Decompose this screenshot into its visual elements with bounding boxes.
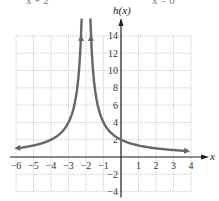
x-tick-label: −5 [28, 160, 39, 171]
x-tick-label: −4 [46, 160, 57, 171]
function-graph: −6−5−4−3−2−11234−4−22468101214 h(x) x [0, 0, 219, 201]
x-tick-label: −2 [81, 160, 92, 171]
y-tick-label: 8 [113, 82, 118, 93]
x-axis-label: x [209, 150, 215, 162]
left-branch-curve [18, 19, 82, 149]
y-tick-label: 6 [113, 100, 118, 111]
y-tick-label: −2 [107, 169, 118, 180]
y-axis-arrow-icon [119, 18, 124, 26]
curves [14, 19, 190, 154]
x-tick-label: −3 [63, 160, 74, 171]
y-axis-label: h(x) [113, 4, 131, 17]
y-tick-label: −4 [107, 186, 118, 197]
x-axis-arrow-icon [201, 155, 209, 160]
y-tick-label: 12 [108, 48, 118, 59]
x-tick-label: 4 [189, 160, 194, 171]
y-tick-label: 10 [108, 65, 118, 76]
y-tick-label: 14 [108, 30, 118, 41]
x-tick-label: 2 [154, 160, 159, 171]
x-tick-label: −6 [11, 160, 22, 171]
x-tick-label: 1 [136, 160, 141, 171]
y-tick-label: 4 [113, 117, 118, 128]
tick-labels: −6−5−4−3−2−11234−4−22468101214 [11, 30, 194, 197]
left-arrow-icon [14, 145, 20, 151]
right-arrow-icon [184, 148, 190, 154]
right-branch-curve [90, 19, 187, 151]
x-tick-label: 3 [171, 160, 176, 171]
